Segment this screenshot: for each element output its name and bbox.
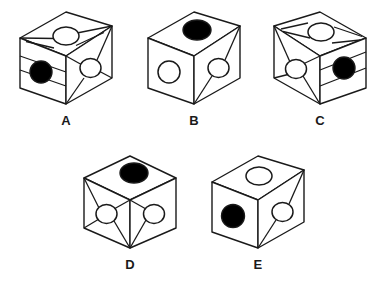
cube-label-d: D: [76, 258, 184, 272]
cube-e-drawing: [204, 152, 312, 256]
cube-a-left-circle: [30, 61, 52, 83]
cube-label-b: B: [140, 114, 248, 128]
cube-c-right-circle: [333, 57, 355, 79]
cube-d-drawing: [76, 152, 184, 256]
cube-c-top-circle: [308, 23, 334, 41]
cube-figure-c[interactable]: C: [266, 8, 374, 118]
cube-figure-e[interactable]: E: [204, 152, 312, 262]
cube-a-right-circle: [80, 59, 101, 78]
puzzle-canvas: A B: [0, 0, 386, 285]
cube-c-drawing: [266, 8, 374, 112]
cube-e-left-circle: [222, 205, 245, 228]
cube-c-left-circle: [286, 60, 307, 79]
cube-b-top-circle: [183, 20, 211, 40]
cube-b-drawing: [140, 8, 248, 112]
cube-a-drawing: [12, 8, 120, 112]
cube-label-c: C: [266, 114, 374, 128]
cube-d-left-circle: [96, 205, 117, 224]
cube-figure-a[interactable]: A: [12, 8, 120, 118]
cube-b-left-circle: [158, 61, 180, 83]
cube-figure-d[interactable]: D: [76, 152, 184, 262]
cube-e-top-circle: [246, 167, 272, 185]
cube-e-right-circle: [272, 203, 293, 222]
cube-figure-b[interactable]: B: [140, 8, 248, 118]
cube-d-right-circle: [144, 205, 165, 224]
cube-label-e: E: [204, 258, 312, 272]
cube-label-a: A: [12, 114, 120, 128]
cube-a-top-circle: [53, 27, 79, 45]
cube-d-top-circle: [120, 163, 148, 183]
cube-b-right-circle: [208, 59, 229, 78]
